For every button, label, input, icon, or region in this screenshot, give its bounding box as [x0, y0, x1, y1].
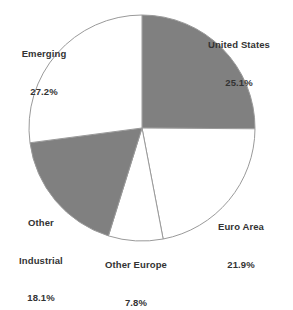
- pie-label-euro-area: Euro Area 21.9%: [196, 196, 286, 296]
- pie-label-other-industrial-name-line1: Other: [2, 217, 80, 230]
- pie-label-emerging-name: Emerging: [3, 48, 85, 61]
- pie-label-other-europe: Other Europe 7.8%: [84, 234, 188, 310]
- pie-label-united-states: United States 25.1%: [189, 14, 289, 114]
- pie-label-other-europe-name: Other Europe: [84, 259, 188, 272]
- pie-label-united-states-value: 25.1%: [189, 77, 289, 90]
- pie-label-euro-area-value: 21.9%: [196, 259, 286, 272]
- pie-label-emerging: Emerging 27.2%: [3, 23, 85, 123]
- pie-label-other-industrial: Other Industrial 18.1%: [2, 192, 80, 310]
- pie-label-other-industrial-name-line2: Industrial: [2, 255, 80, 268]
- pie-label-emerging-value: 27.2%: [3, 86, 85, 99]
- pie-label-united-states-name: United States: [189, 39, 289, 52]
- pie-label-euro-area-name: Euro Area: [196, 221, 286, 234]
- pie-label-other-europe-value: 7.8%: [84, 297, 188, 310]
- pie-label-other-industrial-value: 18.1%: [2, 292, 80, 305]
